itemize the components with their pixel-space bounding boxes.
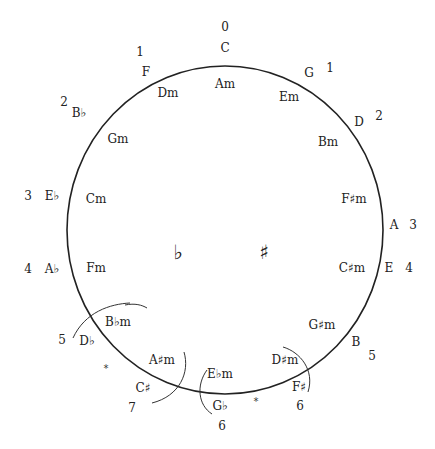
minor-key-label: C♯m <box>339 261 366 275</box>
minor-key-label: D♯m <box>272 353 299 367</box>
enharmonic-asterisk: * <box>254 396 259 407</box>
accidental-count: 5 <box>368 349 376 363</box>
major-key-label: E <box>385 261 394 275</box>
accidental-count: 2 <box>60 95 68 109</box>
accidental-count: 1 <box>136 45 144 59</box>
enharmonic-asterisk: * <box>104 363 109 374</box>
minor-key-label: E♭m <box>207 367 233 381</box>
major-key-label: C♯ <box>136 381 151 395</box>
minor-key-label: Fm <box>86 261 106 275</box>
accidental-count: 7 <box>128 401 136 415</box>
main-circle <box>67 66 383 394</box>
flat-symbol: ♭ <box>173 240 182 264</box>
accidental-count: 4 <box>24 262 32 276</box>
minor-key-label: Em <box>279 90 300 104</box>
major-key-label: A♭ <box>44 262 59 276</box>
enharmonic-arc-dflat-bflatm-top <box>125 304 147 308</box>
major-key-label: F♯ <box>292 380 306 394</box>
accidental-count: 6 <box>218 419 226 433</box>
major-key-label: D <box>354 115 364 129</box>
minor-key-label: Bm <box>318 135 339 149</box>
minor-key-label: F♯m <box>341 192 367 206</box>
accidental-count: 4 <box>405 261 413 275</box>
minor-key-label: B♭m <box>105 315 131 329</box>
accidental-count: 2 <box>375 109 383 123</box>
circle-of-fifths-diagram: C0G1D2A3E4B5F♯6G♭6C♯7D♭5A♭4E♭3B♭2F1 AmEm… <box>0 0 435 449</box>
minor-key-label: A♯m <box>148 353 175 367</box>
accidental-count: 1 <box>326 61 334 75</box>
major-key-label: G♭ <box>212 399 227 413</box>
enharmonic-markers-group: ** <box>104 363 259 407</box>
minor-key-label: Gm <box>108 132 130 146</box>
major-key-label: C <box>220 41 229 55</box>
accidental-count: 3 <box>409 218 417 232</box>
major-key-label: A <box>389 218 399 232</box>
major-key-label: E♭ <box>45 189 59 203</box>
major-key-label: B <box>352 335 361 349</box>
major-key-label: G <box>304 66 314 80</box>
minor-key-label: Cm <box>86 192 107 206</box>
accidental-count: 6 <box>296 399 304 413</box>
minor-key-label: Am <box>214 77 236 91</box>
sharp-symbol: ♯ <box>259 240 269 264</box>
major-key-label: D♭ <box>79 334 94 348</box>
accidental-count: 5 <box>58 333 66 347</box>
major-key-label: F <box>142 65 150 79</box>
minor-key-label: Dm <box>158 86 180 100</box>
major-key-label: B♭ <box>72 106 86 120</box>
minor-key-label: G♯m <box>309 318 336 332</box>
accidental-count: 3 <box>24 189 32 203</box>
accidental-count: 0 <box>221 20 229 34</box>
minor-keys-group: AmEmBmF♯mC♯mG♯mD♯mE♭mA♯mB♭mFmCmGmDm <box>86 77 368 381</box>
